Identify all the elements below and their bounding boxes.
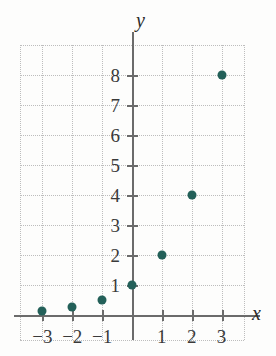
y-axis-tick [127,165,138,167]
data-point [128,280,137,289]
gridline-vertical [42,45,43,340]
gridline-vertical [20,45,21,340]
data-point [38,306,47,315]
x-axis-tick-label: 3 [217,327,227,346]
y-axis-tick [127,195,138,197]
y-axis-tick [127,255,138,257]
y-axis-tick-label: 3 [100,215,120,234]
x-axis-tick [102,310,104,321]
y-axis-tick-label: 1 [100,275,120,294]
data-point [157,250,166,259]
y-axis-tick [127,135,138,137]
data-point [187,190,196,199]
x-axis-tick [162,310,164,321]
x-axis-tick-label: −3 [32,327,52,346]
data-point [68,303,77,312]
x-axis-label: x [252,303,261,323]
y-axis-label: y [136,10,145,30]
data-point [217,70,226,79]
x-axis-tick [192,310,194,321]
y-axis-tick [127,225,138,227]
x-axis-tick-label: −1 [92,327,112,346]
gridline-horizontal [20,340,244,341]
x-axis-tick-label: −2 [62,327,82,346]
gridline-vertical [222,45,223,340]
x-axis-tick [222,310,224,321]
scatter-plot-figure: −3−2−112312345678xy [0,0,276,356]
y-axis [132,32,134,340]
y-axis-tick [127,105,138,107]
gridline-vertical [72,45,73,340]
y-axis-tick-label: 4 [100,185,120,204]
x-axis-tick-label: 1 [157,327,167,346]
x-axis-tick-label: 2 [187,327,197,346]
y-axis-tick-label: 2 [100,245,120,264]
y-axis-tick [127,75,138,77]
gridline-vertical [162,45,163,340]
y-axis-tick-label: 8 [100,65,120,84]
y-axis-tick-label: 6 [100,125,120,144]
y-axis-tick-label: 5 [100,155,120,174]
gridline-vertical [244,45,245,340]
data-point [98,295,107,304]
y-axis-tick-label: 7 [100,95,120,114]
